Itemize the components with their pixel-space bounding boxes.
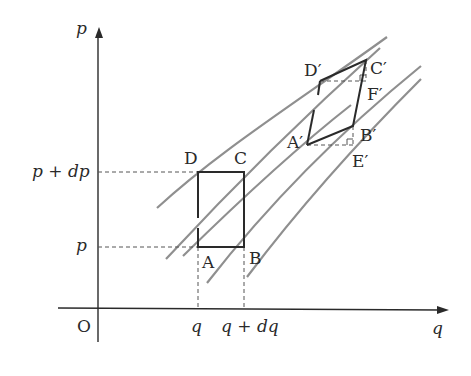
vertex-a: A (201, 252, 215, 272)
axes (58, 36, 440, 342)
tick-p-plus-dp: p + dp (32, 161, 90, 181)
vertex-b-prime: B′ (360, 125, 376, 145)
p-axis-arrow-icon (95, 27, 103, 38)
origin-label: O (77, 316, 91, 336)
phase-space-diagram: p q O p + dp p q q + dq A B C D A′ B′ C′… (0, 0, 471, 376)
vertex-d: D (184, 148, 198, 168)
tick-q: q (191, 316, 202, 336)
vertex-a-prime: A′ (286, 132, 303, 152)
q-axis-arrow-icon (437, 306, 449, 314)
curve-5 (247, 79, 421, 277)
tick-p: p (76, 235, 87, 255)
curve-1 (157, 37, 387, 208)
curve-2 (166, 48, 380, 259)
tick-q-plus-dq: q + dq (221, 316, 279, 336)
q-axis-label: q (432, 318, 443, 338)
vertex-c-prime: C′ (370, 58, 387, 78)
vertex-f-prime: F′ (367, 84, 383, 104)
vertex-e-prime: E′ (352, 151, 368, 171)
curve-4 (207, 66, 421, 283)
q-axis (58, 308, 440, 310)
vertex-b: B (249, 248, 262, 268)
p-axis-label: p (76, 18, 87, 38)
vertex-d-prime: D′ (304, 60, 322, 80)
vertex-c: C (234, 148, 247, 168)
